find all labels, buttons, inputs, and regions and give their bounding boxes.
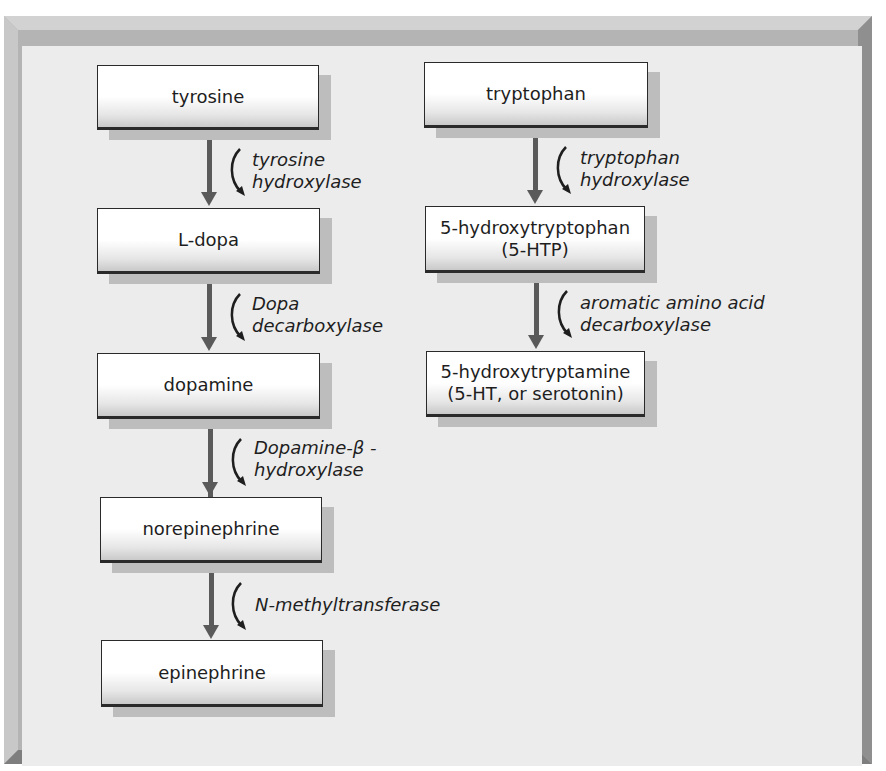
arrow-head-icon	[201, 337, 217, 351]
frame-bevel-left	[4, 16, 18, 764]
node-tryptophan: tryptophan	[424, 62, 648, 128]
curved-arrow-icon	[226, 146, 248, 198]
arrow-head-icon	[201, 192, 217, 206]
enzyme-line: Dopa	[252, 293, 383, 315]
node-tyrosine: tyrosine	[97, 65, 319, 130]
curved-arrow-icon	[227, 580, 249, 632]
node-l-dopa: L-dopa	[97, 208, 320, 274]
node-dopamine: dopamine	[97, 353, 320, 419]
enzyme-line: Dopamine-β -	[254, 437, 377, 459]
arrow-head-icon	[202, 482, 218, 496]
node-5-hydroxytryptophan: 5-hydroxytryptophan (5-HTP)	[425, 206, 645, 273]
curved-arrow-icon	[227, 436, 249, 488]
node-label: dopamine	[164, 374, 254, 396]
enzyme-label-aromatic-amino-acid-decarboxylase: aromatic amino acid decarboxylase	[580, 292, 765, 336]
arrow-tyrosine-to-ldopa	[207, 130, 212, 192]
node-label-line: (5-HT, or serotonin)	[447, 383, 623, 405]
arrow-head-icon	[203, 625, 219, 639]
curved-arrow-icon	[553, 288, 575, 340]
arrow-head-icon	[528, 335, 544, 349]
node-label: tryptophan	[486, 83, 586, 105]
enzyme-label-n-methyltransferase: N-methyltransferase	[255, 594, 440, 616]
curved-arrow-icon	[552, 144, 574, 196]
node-label: norepinephrine	[142, 518, 279, 540]
arrow-5htp-to-5ht	[534, 273, 539, 335]
node-epinephrine: epinephrine	[101, 640, 323, 707]
enzyme-line: N-methyltransferase	[255, 594, 440, 616]
enzyme-line: decarboxylase	[252, 315, 383, 337]
enzyme-line: aromatic amino acid	[580, 292, 765, 314]
enzyme-label-tyrosine-hydroxylase: tyrosine hydroxylase	[252, 149, 362, 193]
enzyme-line: hydroxylase	[252, 171, 362, 193]
arrow-ldopa-to-dopamine	[207, 274, 212, 337]
node-label-line: (5-HTP)	[501, 239, 568, 261]
enzyme-line: tyrosine	[252, 149, 362, 171]
enzyme-line: tryptophan	[580, 147, 690, 169]
enzyme-label-dopa-decarboxylase: Dopa decarboxylase	[252, 293, 383, 337]
frame-bevel-top	[4, 16, 872, 30]
enzyme-line: decarboxylase	[580, 314, 765, 336]
node-5-hydroxytryptamine: 5-hydroxytryptamine (5-HT, or serotonin)	[426, 351, 645, 417]
node-label-line: 5-hydroxytryptophan	[440, 217, 630, 239]
arrow-tryptophan-to-5htp	[533, 128, 538, 190]
enzyme-label-tryptophan-hydroxylase: tryptophan hydroxylase	[580, 147, 690, 191]
node-label-line: 5-hydroxytryptamine	[441, 361, 631, 383]
node-label: L-dopa	[178, 229, 239, 251]
arrow-norepinephrine-to-epinephrine	[209, 563, 214, 625]
enzyme-label-dopamine-beta-hydroxylase: Dopamine-β - hydroxylase	[254, 437, 377, 481]
node-label: tyrosine	[172, 86, 245, 108]
enzyme-line: hydroxylase	[254, 459, 377, 481]
node-norepinephrine: norepinephrine	[100, 497, 322, 563]
curved-arrow-icon	[226, 291, 248, 343]
enzyme-line: hydroxylase	[580, 169, 690, 191]
arrow-head-icon	[527, 190, 543, 204]
node-label: epinephrine	[158, 662, 266, 684]
